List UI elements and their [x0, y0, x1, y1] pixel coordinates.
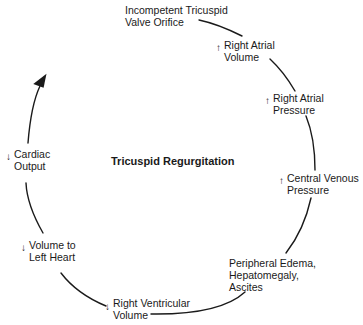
arc-rv-volume-to-left-heart: [61, 273, 106, 306]
node-label-line: Ascites: [229, 281, 316, 293]
node-label-line: Hepatomegaly,: [229, 269, 316, 281]
node-label-line: Peripheral Edema,: [229, 257, 316, 269]
node-volume-to-left-heart: ↓ Volume to Left Heart: [29, 239, 76, 263]
node-label-line: Right Atrial: [224, 39, 275, 51]
down-arrow-icon: ↓: [105, 302, 110, 312]
node-label-line: Right Atrial: [273, 92, 324, 104]
arc-cardiac-output-to-top: [28, 86, 40, 143]
node-label-line: Central Venous: [287, 172, 359, 184]
node-label-line: Right Ventricular: [113, 297, 190, 309]
arc-atrial-pressure-to-central-venous: [306, 116, 315, 170]
node-central-venous-pressure: ↑ Central Venous Pressure: [287, 172, 359, 196]
node-label-line: Output: [14, 160, 50, 172]
node-label-line: Pressure: [287, 184, 359, 196]
node-label-line: Cardiac: [14, 148, 50, 160]
up-arrow-icon: ↑: [265, 96, 270, 106]
node-peripheral-edema: Peripheral Edema, Hepatomegaly, Ascites: [229, 257, 316, 293]
node-label-line: Pressure: [273, 104, 324, 116]
node-label-line: Volume to: [29, 239, 76, 251]
node-cardiac-output: ↓ Cardiac Output: [14, 148, 50, 172]
node-right-ventricular-volume: ↓ Right Ventricular Volume: [113, 297, 190, 321]
cycle-arrowhead-icon: [33, 71, 48, 88]
node-label-line: Valve Orifice: [125, 16, 228, 28]
arc-central-venous-to-edema: [286, 198, 311, 253]
up-arrow-icon: ↑: [216, 43, 221, 53]
node-incompetent-valve: Incompetent Tricuspid Valve Orifice: [125, 4, 228, 28]
down-arrow-icon: ↓: [6, 152, 11, 162]
node-right-atrial-pressure: ↑ Right Atrial Pressure: [273, 92, 324, 116]
node-label-line: Left Heart: [29, 251, 76, 263]
node-label-line: Volume: [224, 51, 275, 63]
node-label-line: Incompetent Tricuspid: [125, 4, 228, 16]
arc-left-heart-to-cardiac-output: [26, 183, 43, 233]
diagram-title: Tricuspid Regurgitation: [111, 155, 234, 167]
arc-atrial-volume-to-atrial-pressure: [270, 59, 295, 91]
up-arrow-icon: ↑: [279, 176, 284, 186]
node-right-atrial-volume: ↑ Right Atrial Volume: [224, 39, 275, 63]
node-label-line: Volume: [113, 309, 190, 321]
down-arrow-icon: ↓: [21, 243, 26, 253]
